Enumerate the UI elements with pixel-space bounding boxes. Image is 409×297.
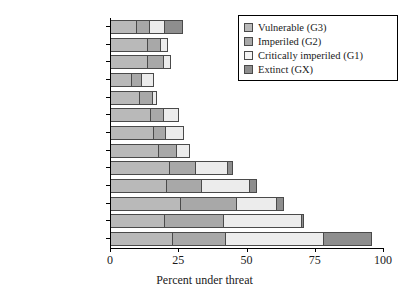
legend-item: Critically imperiled (G1)	[244, 48, 392, 62]
legend-label: Imperiled (G2)	[258, 36, 321, 47]
bar-row: Freshwater mussels	[110, 232, 383, 246]
x-tick-label: 100	[363, 253, 403, 268]
bar-row: Conifers	[110, 144, 383, 158]
bar-segment-g2	[169, 161, 196, 175]
x-tick-label: 0	[90, 253, 130, 268]
bar-segment-gx	[276, 197, 284, 211]
bar-segment-gx	[323, 232, 372, 246]
stacked-bar	[110, 73, 153, 87]
bar-segment-gx	[227, 161, 232, 175]
bar-segment-g1	[195, 161, 228, 175]
stacked-bar	[110, 197, 283, 211]
bar-segment-g1	[149, 20, 165, 34]
x-tick-label: 75	[295, 253, 335, 268]
bar-segment-g1	[223, 214, 302, 228]
bar-segment-g3	[110, 214, 165, 228]
stacked-bar	[110, 108, 178, 122]
stacked-bar-chart: BirdsMammalsButterfliesReptilesDragonfli…	[0, 0, 409, 297]
bar-segment-g1	[225, 232, 323, 246]
x-tick	[315, 248, 316, 252]
bar-row: Freshwater fishes	[110, 179, 383, 193]
bar-segment-g2	[158, 144, 177, 158]
stacked-bar	[110, 20, 182, 34]
stacked-bar	[110, 232, 371, 246]
bar-row: Amphibians	[110, 197, 383, 211]
x-tick-label: 25	[158, 253, 198, 268]
bar-segment-g1	[236, 197, 277, 211]
legend-swatch-g2	[244, 37, 253, 46]
legend-swatch-gx	[244, 65, 253, 74]
bar-segment-g2	[153, 126, 167, 140]
bar-segment-g3	[110, 179, 167, 193]
bar-segment-g3	[110, 91, 140, 105]
bar-segment-g1	[201, 179, 250, 193]
legend-label: Vulnerable (G3)	[258, 22, 326, 33]
bar-segment-g1	[152, 91, 157, 105]
bar-segment-g2	[136, 20, 150, 34]
legend-label: Critically imperiled (G1)	[258, 50, 363, 61]
legend-item: Vulnerable (G3)	[244, 20, 392, 34]
bar-segment-g2	[180, 197, 237, 211]
bar-segment-g3	[110, 161, 170, 175]
bar-segment-g1	[141, 73, 155, 87]
bar-segment-g3	[110, 232, 173, 246]
bar-row: Flowering plants	[110, 161, 383, 175]
bar-segment-g1	[176, 144, 190, 158]
bar-segment-g3	[110, 144, 159, 158]
legend-swatch-g1	[244, 51, 253, 60]
legend-label: Extinct (GX)	[258, 64, 313, 75]
bar-segment-g2	[147, 38, 161, 52]
stacked-bar	[110, 179, 256, 193]
stacked-bar	[110, 38, 167, 52]
legend-item: Extinct (GX)	[244, 62, 392, 76]
bar-segment-g1	[163, 108, 179, 122]
bar-segment-g1	[163, 55, 171, 69]
bar-row: Dragonflies	[110, 91, 383, 105]
bar-row: Crayfishes	[110, 214, 383, 228]
bar-segment-g3	[110, 126, 154, 140]
legend-swatch-g3	[244, 23, 253, 32]
bar-segment-g2	[139, 91, 153, 105]
bar-segment-g2	[150, 108, 164, 122]
legend: Vulnerable (G3)Imperiled (G2)Critically …	[238, 15, 398, 81]
stacked-bar	[110, 91, 156, 105]
bar-row: Tiger beetles	[110, 108, 383, 122]
bar-segment-g2	[164, 214, 224, 228]
x-tick	[110, 248, 111, 252]
bar-segment-g3	[110, 20, 137, 34]
x-tick-label: 50	[227, 253, 267, 268]
bar-segment-g3	[110, 197, 181, 211]
stacked-bar	[110, 161, 232, 175]
bar-segment-g2	[166, 179, 201, 193]
bar-segment-gx	[249, 179, 257, 193]
bar-segment-g1	[165, 126, 184, 140]
bar-segment-g3	[110, 55, 148, 69]
stacked-bar	[110, 144, 189, 158]
bar-segment-g3	[110, 73, 132, 87]
stacked-bar	[110, 214, 303, 228]
bar-segment-gx	[164, 20, 183, 34]
stacked-bar	[110, 126, 183, 140]
bar-segment-g3	[110, 108, 151, 122]
bar-segment-g1	[160, 38, 168, 52]
bar-segment-g3	[110, 38, 148, 52]
bar-row: Ferns	[110, 126, 383, 140]
legend-item: Imperiled (G2)	[244, 34, 392, 48]
bar-segment-g2	[172, 232, 227, 246]
stacked-bar	[110, 55, 170, 69]
bar-segment-g2	[147, 55, 163, 69]
x-axis-title: Percent under threat	[0, 273, 409, 288]
x-tick	[383, 248, 384, 252]
x-tick	[178, 248, 179, 252]
bar-segment-gx	[301, 214, 304, 228]
y-axis-line	[110, 18, 111, 248]
x-tick	[247, 248, 248, 252]
